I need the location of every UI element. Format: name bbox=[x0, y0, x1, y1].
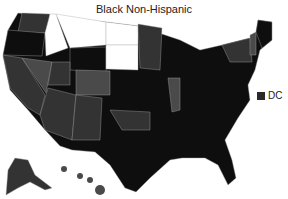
state-hi bbox=[77, 173, 83, 179]
state-nm bbox=[72, 95, 102, 140]
state-co bbox=[76, 70, 110, 95]
dc-swatch bbox=[257, 92, 265, 100]
state-hi bbox=[95, 185, 105, 195]
legend-dc: DC bbox=[257, 90, 282, 101]
state-hi bbox=[61, 166, 67, 172]
us-choropleth-map bbox=[0, 0, 288, 199]
state-ut bbox=[48, 62, 70, 85]
legend-label: DC bbox=[268, 90, 282, 101]
state-hi bbox=[87, 177, 93, 183]
state-nd bbox=[106, 22, 138, 45]
state-mn bbox=[138, 24, 162, 70]
state-wy bbox=[70, 47, 106, 72]
state-vt bbox=[250, 32, 256, 55]
state-sd bbox=[106, 45, 138, 70]
state-wa bbox=[18, 13, 50, 33]
state-ak bbox=[6, 158, 52, 195]
state-or bbox=[3, 30, 45, 56]
